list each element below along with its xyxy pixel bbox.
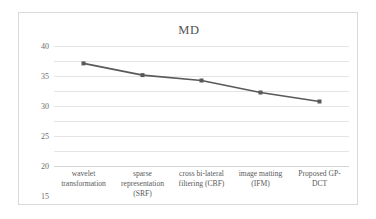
x-axis-category-label-line: transformation — [55, 179, 112, 189]
y-axis-tick-label: 15 — [41, 192, 49, 201]
x-axis-category-label-line: (IFM) — [232, 179, 289, 189]
y-axis-tick-label: 40 — [41, 42, 49, 51]
x-axis-category-label-line: wavelet — [55, 169, 112, 179]
line-series: wavelet transformation: 34.2sparse repre… — [54, 46, 349, 166]
x-axis-category-label: Proposed GP-DCT — [290, 169, 349, 211]
chart-frame: MD 0510152025303540 wavelet transformati… — [18, 12, 358, 205]
chart-title: MD — [19, 23, 359, 38]
x-axis-category-label-line: representation — [114, 179, 171, 189]
x-axis-category-label-line: filtering (CBF) — [173, 179, 230, 189]
data-point-marker: Proposed GP-DCT: 21.5 — [318, 100, 322, 104]
x-axis-category-label-line: Proposed GP-DCT — [291, 169, 348, 189]
data-point-marker: wavelet transformation: 34.2 — [82, 61, 86, 65]
data-point-marker: image matting (IFM): 24.5 — [259, 91, 263, 95]
plot-area: 0510152025303540 wavelet transformation:… — [54, 46, 349, 166]
y-axis-tick-label: 30 — [41, 102, 49, 111]
x-axis-category-label: sparserepresentation(SRF) — [113, 169, 172, 211]
x-axis-category-label-line: image matting — [232, 169, 289, 179]
chart-container: MD 0510152025303540 wavelet transformati… — [0, 0, 376, 219]
gridline: 0 — [54, 166, 349, 167]
x-axis-category-label: cross bi-lateralfiltering (CBF) — [172, 169, 231, 211]
y-axis-tick-label: 25 — [41, 132, 49, 141]
data-point-marker: sparse representation (SRF): 30.3 — [141, 73, 145, 77]
data-point-marker: cross bi-lateral filtering (CBF): 28.5 — [200, 79, 204, 83]
y-axis-tick-label: 20 — [41, 162, 49, 171]
x-axis-category-label: image matting(IFM) — [231, 169, 290, 211]
x-axis-category-label: wavelettransformation — [54, 169, 113, 211]
x-axis-category-label-line: cross bi-lateral — [173, 169, 230, 179]
y-axis-tick-label: 35 — [41, 72, 49, 81]
x-axis-category-label-line: sparse — [114, 169, 171, 179]
x-axis-labels: wavelettransformationsparserepresentatio… — [54, 169, 349, 211]
x-axis-category-label-line: (SRF) — [114, 189, 171, 199]
